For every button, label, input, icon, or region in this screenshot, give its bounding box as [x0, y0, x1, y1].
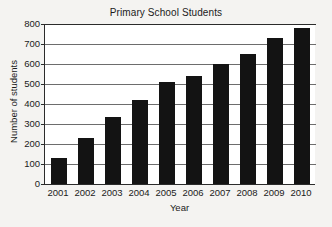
y-tick-label-200: 200 [0, 139, 40, 149]
bar-2005 [159, 82, 175, 184]
x-axis-title: Year [44, 202, 315, 213]
x-tick-label-2006: 2006 [179, 188, 207, 198]
y-axis-title: Number of students [8, 42, 19, 162]
bar-chart-figure: Primary School Students 0100200300400500… [0, 0, 332, 227]
bar-2003 [105, 117, 121, 184]
bar-2008 [240, 54, 256, 184]
bar-2001 [51, 158, 67, 184]
y-tick-label-100: 100 [0, 159, 40, 169]
bar-2010 [294, 28, 310, 184]
x-tick-label-2002: 2002 [71, 188, 99, 198]
bar-2007 [213, 64, 229, 184]
y-tick-label-0: 0 [0, 179, 40, 189]
bar-2006 [186, 76, 202, 184]
bar-2004 [132, 100, 148, 184]
y-tick-0 [41, 184, 45, 185]
y-tick-label-600: 600 [0, 59, 40, 69]
plot-area [44, 24, 315, 185]
x-tick-label-2009: 2009 [260, 188, 288, 198]
y-tick-label-500: 500 [0, 79, 40, 89]
bar-series [45, 24, 316, 184]
x-tick-label-2010: 2010 [287, 188, 315, 198]
x-tick-label-2003: 2003 [98, 188, 126, 198]
y-tick-label-700: 700 [0, 39, 40, 49]
y-axis-tick-labels: 0100200300400500600700800 [0, 24, 40, 185]
x-tick-label-2004: 2004 [125, 188, 153, 198]
x-tick-label-2001: 2001 [44, 188, 72, 198]
x-tick-label-2007: 2007 [206, 188, 234, 198]
chart-title: Primary School Students [0, 7, 332, 18]
x-axis-tick-labels: 2001200220032004200520062007200820092010 [44, 188, 315, 202]
x-tick-label-2005: 2005 [152, 188, 180, 198]
bar-2009 [267, 38, 283, 184]
y-tick-label-300: 300 [0, 119, 40, 129]
y-tick-label-400: 400 [0, 99, 40, 109]
bar-2002 [78, 138, 94, 184]
x-tick-label-2008: 2008 [233, 188, 261, 198]
y-tick-label-800: 800 [0, 19, 40, 29]
